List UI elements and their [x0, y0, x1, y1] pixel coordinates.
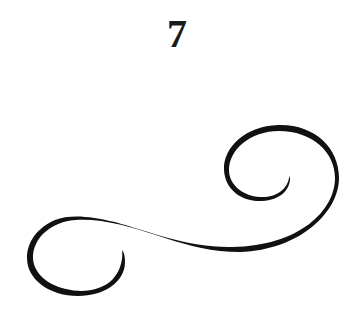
- flourish-ornament-icon: [0, 0, 354, 316]
